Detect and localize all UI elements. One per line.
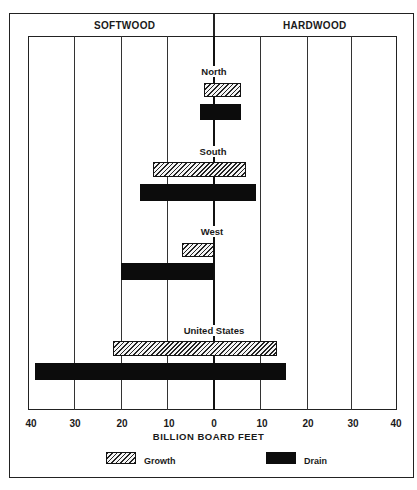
gridline (351, 36, 352, 410)
x-tick: 10 (163, 418, 174, 429)
x-tick: 30 (347, 418, 358, 429)
west-drain-bar (121, 263, 214, 280)
south-growth-bar (153, 162, 246, 177)
section-divider (213, 13, 215, 36)
legend-growth-label: Growth (144, 456, 176, 466)
x-tick: 10 (256, 418, 267, 429)
x-tick: 40 (390, 418, 401, 429)
legend-drain-label: Drain (304, 456, 327, 466)
legend-drain-swatch (266, 452, 296, 464)
x-tick: 20 (302, 418, 313, 429)
region-label-north: North (200, 66, 227, 77)
north-drain-bar (200, 104, 241, 120)
region-label-west: West (200, 226, 225, 237)
region-label-south: South (199, 146, 228, 157)
x-tick: 0 (211, 418, 217, 429)
x-tick: 40 (25, 418, 36, 429)
region-label-united-states: United States (183, 325, 246, 336)
us-drain-bar (35, 363, 286, 380)
gridline (307, 36, 308, 410)
gridline (74, 36, 75, 410)
west-growth-bar (182, 243, 214, 257)
x-tick: 20 (116, 418, 127, 429)
x-tick: 30 (69, 418, 80, 429)
us-growth-bar (113, 341, 277, 356)
legend-growth-swatch (106, 452, 136, 464)
hardwood-header: HARDWOOD (283, 20, 347, 31)
north-growth-bar (204, 83, 241, 97)
softwood-header: SOFTWOOD (94, 20, 155, 31)
south-drain-bar (140, 184, 256, 201)
x-axis-label: BILLION BOARD FEET (0, 431, 417, 442)
